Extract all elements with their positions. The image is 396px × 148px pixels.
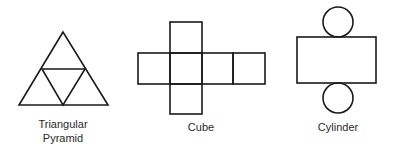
cube-face-right xyxy=(202,53,233,84)
cube-net: Cube xyxy=(138,22,265,133)
cylinder-label: Cylinder xyxy=(318,121,359,133)
pyramid-label-line2: Pyramid xyxy=(43,132,83,144)
cube-label: Cube xyxy=(188,121,214,133)
cube-face-front xyxy=(170,53,202,84)
cylinder-bottom-circle xyxy=(323,83,353,113)
cube-face-bottom xyxy=(170,84,202,114)
cylinder-top-circle xyxy=(323,7,353,37)
cylinder-net: Cylinder xyxy=(297,7,376,133)
pyramid-label-line1: Triangular xyxy=(38,118,87,130)
cube-face-left xyxy=(138,53,170,84)
triangular-pyramid-net: Triangular Pyramid xyxy=(19,32,108,144)
nets-diagram: Triangular Pyramid Cube Cylinder xyxy=(0,0,396,148)
cube-face-top xyxy=(170,22,202,53)
cube-face-back xyxy=(233,53,265,84)
pyramid-inner-triangle xyxy=(42,69,85,105)
cylinder-side-rectangle xyxy=(297,37,376,83)
